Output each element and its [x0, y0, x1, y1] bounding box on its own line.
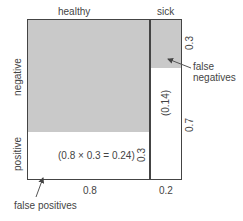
arrow-icon: [0, 0, 243, 221]
